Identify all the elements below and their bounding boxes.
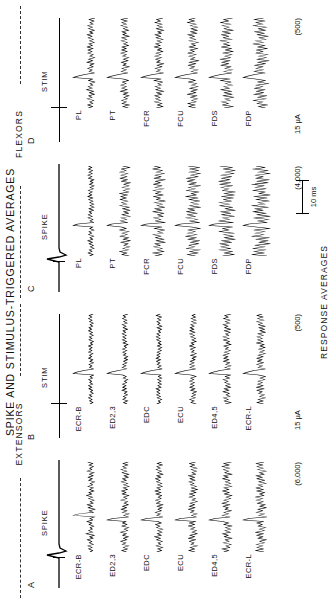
stimulus-artifact-marker: [51, 403, 67, 404]
stim-current-label: 15 µA: [293, 114, 302, 134]
trace-waveform: [72, 18, 110, 108]
trace-row: PT: [106, 164, 140, 292]
trace-waveform: [140, 462, 178, 552]
trace-label-ed2-3: ED2,3: [108, 554, 117, 588]
trace-row: EDC: [140, 312, 174, 440]
trace-stack: ECR-BED2,3EDCECUED4,5ECR-L: [72, 460, 280, 588]
trace-label-fds: FDS: [210, 258, 219, 292]
trace-stack: ECR-BED2,3EDCECUED4,5ECR-L: [72, 312, 280, 440]
trace-label-pl: PL: [74, 258, 83, 292]
trigger-trace-d: STIM: [39, 16, 69, 144]
trace-row: PT: [106, 16, 140, 144]
trace-label-fcu: FCU: [176, 258, 185, 292]
footer-label: RESPONSE AVERAGES: [319, 0, 329, 604]
trace-waveform: [208, 166, 246, 256]
figure-title: SPIKE AND STIMULUS-TRIGGERED AVERAGES: [4, 0, 16, 604]
trace-row: ED2,3: [106, 460, 140, 588]
trace-waveform: [208, 314, 246, 404]
trigger-baseline: [59, 18, 60, 142]
trace-label-pl: PL: [74, 110, 83, 144]
separator-flexors-right: [20, 6, 21, 84]
scale-bar-cap-right: [296, 180, 309, 181]
trace-label-fdp: FDP: [244, 110, 253, 144]
trace-waveform: [174, 314, 212, 404]
trace-row: EDC: [140, 460, 174, 588]
trace-row: FDS: [208, 164, 242, 292]
scale-bar-line: [302, 180, 303, 214]
trigger-trace-c: SPIKE: [39, 164, 69, 292]
figure: SPIKE AND STIMULUS-TRIGGERED AVERAGES EX…: [0, 0, 332, 604]
trace-row: FDS: [208, 16, 242, 144]
spike-waveform: [39, 164, 69, 292]
trace-label-edc: EDC: [142, 406, 151, 440]
trace-label-ecr-l: ECR-L: [244, 406, 253, 440]
trace-label-fcr: FCR: [142, 110, 151, 144]
trigger-trace-b: STIM: [39, 312, 69, 440]
trace-waveform: [140, 314, 178, 404]
trace-row: ECR-L: [242, 460, 276, 588]
scale-bar-label: 10 ms: [309, 180, 318, 214]
trace-row: ED4,5: [208, 460, 242, 588]
trace-label-pt: PT: [108, 258, 117, 292]
trace-label-ed2-3: ED2,3: [108, 406, 117, 440]
trace-row: ECR-B: [72, 312, 106, 440]
trace-waveform: [106, 462, 144, 552]
spike-waveform: [39, 460, 69, 588]
trace-row: FCR: [140, 164, 174, 292]
trace-label-ecr-l: ECR-L: [244, 554, 253, 588]
trace-row: FCU: [174, 16, 208, 144]
trace-waveform: [106, 314, 144, 404]
figure-rotation-container: SPIKE AND STIMULUS-TRIGGERED AVERAGES EX…: [0, 0, 332, 604]
group-label-extensors: EXTENSORS: [14, 398, 24, 469]
trace-row: ECR-B: [72, 460, 106, 588]
panel-letter-a: A: [26, 582, 36, 588]
trace-waveform: [72, 166, 110, 256]
trace-label-ecr-b: ECR-B: [74, 406, 83, 440]
panel-c: CSPIKEPLPTFCRFCUFDSFDP(4,000): [26, 164, 306, 292]
trace-stack: PLPTFCRFCUFDSFDP: [72, 164, 280, 292]
trigger-baseline: [59, 314, 60, 438]
trace-waveform: [174, 18, 212, 108]
trace-label-fds: FDS: [210, 110, 219, 144]
panel-b: BSTIMECR-BED2,3EDCECUED4,5ECR-L(500)15 µ…: [26, 312, 306, 440]
trace-stack: PLPTFCRFCUFDSFDP: [72, 16, 280, 144]
trace-row: ECU: [174, 312, 208, 440]
figure-footer: RESPONSE AVERAGES: [314, 0, 332, 604]
trace-waveform: [106, 166, 144, 256]
trigger-trace-a: SPIKE: [39, 460, 69, 588]
trace-row: PL: [72, 164, 106, 292]
trace-label-fdp: FDP: [244, 258, 253, 292]
trace-label-ecu: ECU: [176, 406, 185, 440]
sweep-count-label: (6,000): [293, 462, 302, 486]
trace-waveform: [242, 314, 280, 404]
trace-row: FCU: [174, 164, 208, 292]
trace-label-fcu: FCU: [176, 110, 185, 144]
sweep-count-label: (500): [293, 314, 302, 332]
separator-extensors-right: [20, 304, 21, 376]
trace-waveform: [106, 18, 144, 108]
trigger-label: STIM: [40, 366, 49, 388]
stim-current-label: 15 µA: [293, 410, 302, 430]
trace-waveform: [72, 462, 110, 552]
trace-label-ed4-5: ED4,5: [210, 554, 219, 588]
trace-waveform: [242, 462, 280, 552]
panel-d: DSTIMPLPTFCRFCUFDSFDP(500)15 µA: [26, 16, 306, 144]
trace-waveform: [174, 166, 212, 256]
trace-waveform: [242, 18, 280, 108]
trace-label-edc: EDC: [142, 554, 151, 588]
panel-a: ASPIKEECR-BED2,3EDCECUED4,5ECR-L(6,000): [26, 460, 306, 588]
panel-letter-c: C: [26, 286, 36, 293]
separator-flexors-left: [20, 186, 21, 298]
scale-bar-cap-left: [296, 213, 309, 214]
trace-waveform: [140, 18, 178, 108]
trace-label-ed4-5: ED4,5: [210, 406, 219, 440]
trace-waveform: [174, 462, 212, 552]
trace-row: PL: [72, 16, 106, 144]
trace-waveform: [208, 462, 246, 552]
spike-trigger-marker: [53, 261, 65, 262]
trace-waveform: [140, 166, 178, 256]
trace-row: ECR-L: [242, 312, 276, 440]
group-label-flexors: FLEXORS: [14, 106, 24, 162]
trace-label-ecr-b: ECR-B: [74, 554, 83, 588]
trace-waveform: [72, 314, 110, 404]
